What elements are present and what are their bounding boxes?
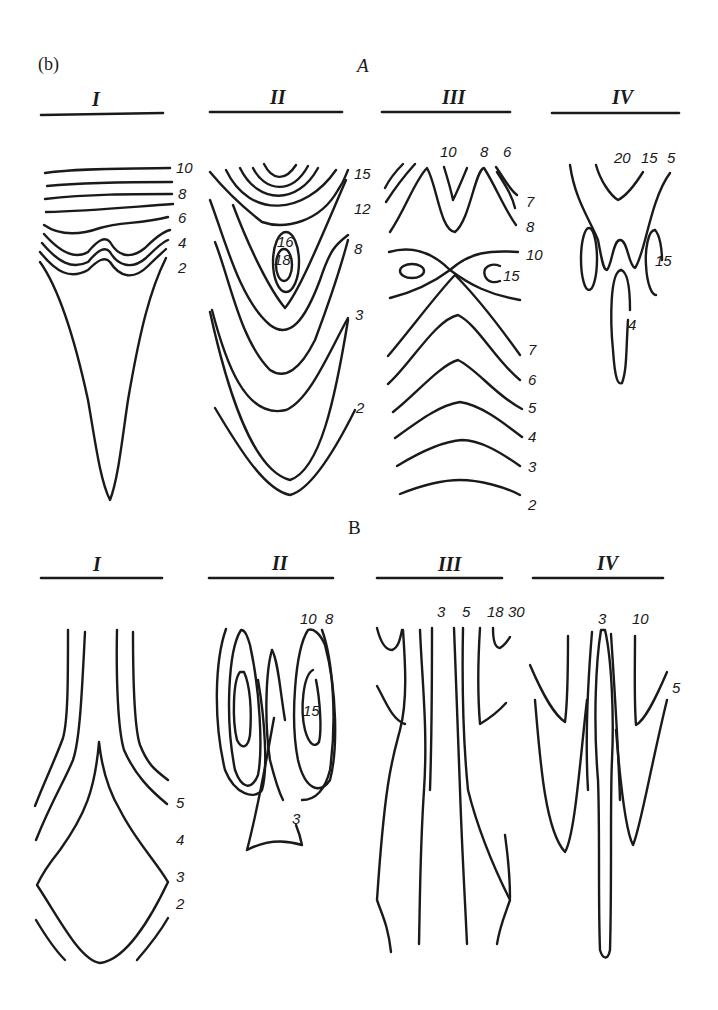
contour-label: 8 [480, 143, 489, 160]
row-label-a: A [355, 55, 369, 76]
contour-loop [581, 228, 597, 290]
contour-label: 5 [528, 399, 537, 416]
contour-label: 15 [641, 149, 658, 166]
contour-label: 16 [277, 233, 294, 250]
panel-b-1: I 5 4 3 2 [35, 553, 185, 963]
contour-line [377, 630, 405, 952]
contour-line [215, 408, 355, 495]
contour-line [400, 480, 520, 495]
contour-line [137, 918, 168, 960]
contour-label: 3 [528, 458, 537, 475]
contour-line [210, 312, 348, 480]
panel-a-3: III 10 8 6 7 8 10 15 7 6 5 4 3 2 [382, 86, 543, 513]
contour-line [430, 628, 432, 790]
contour-label: 5 [176, 794, 185, 811]
panel-title: IV [611, 86, 635, 108]
contour-label: 5 [672, 679, 681, 696]
panel-title: III [437, 553, 463, 575]
contour-line [40, 258, 166, 500]
contour-label: 3 [176, 868, 185, 885]
panel-b-2: II 10 8 15 3 [209, 552, 335, 850]
contour-label: 10 [300, 610, 317, 627]
contour-loop [595, 630, 612, 958]
panel-b-4: IV 3 10 5 [530, 552, 681, 958]
contour-label: 4 [178, 234, 186, 251]
contour-label: 6 [528, 371, 537, 388]
contour-line [463, 628, 510, 944]
contour-line [505, 835, 510, 898]
contour-label: 10 [526, 246, 543, 263]
contour-line [377, 686, 405, 724]
panel-title: II [269, 86, 287, 108]
contour-label: 10 [632, 610, 649, 627]
contour-line [36, 632, 85, 840]
panel-divider [41, 113, 163, 115]
contour-line [272, 650, 285, 720]
contour-label: 3 [355, 306, 364, 323]
contour-line [454, 628, 467, 944]
contour-label: 15 [303, 702, 320, 719]
contour-line [587, 632, 592, 790]
contour-line [266, 650, 283, 800]
row-label-b: B [348, 517, 361, 538]
panel-title: III [441, 86, 467, 108]
contour-line [37, 742, 168, 963]
contour-label: 2 [355, 399, 365, 416]
contour-line [45, 168, 170, 173]
contour-line [385, 164, 403, 188]
contour-label: 6 [178, 209, 187, 226]
contour-line [388, 315, 520, 384]
contour-line [133, 632, 168, 780]
contour-line [419, 630, 425, 944]
contour-line [40, 249, 166, 275]
contour-label: 30 [508, 603, 525, 620]
contour-line [45, 194, 172, 199]
contour-loop [400, 264, 424, 278]
contour-label: 3 [598, 610, 607, 627]
contour-label: 6 [503, 143, 512, 160]
panel-a-4: IV 20 15 5 15 4 [552, 86, 679, 383]
contour-line [397, 440, 520, 466]
contour-label: 3 [437, 603, 446, 620]
panel-title: I [92, 553, 102, 575]
contour-label: 2 [177, 259, 187, 276]
panel-title: II [271, 552, 289, 574]
panel-a-2: II 15 12 16 18 8 3 2 [210, 86, 371, 495]
contour-label: 15 [354, 165, 371, 182]
contour-label: 5 [462, 603, 471, 620]
contour-label: 12 [354, 200, 371, 217]
contour-label: 7 [526, 193, 535, 210]
contour-line [496, 167, 517, 195]
contour-line [389, 249, 518, 270]
panel-a-1: I 10 8 6 4 2 [40, 88, 193, 500]
contour-label: 20 [613, 149, 631, 166]
contour-line [395, 402, 522, 438]
contour-line [635, 636, 667, 725]
panel-b-3: III 3 5 18 30 [377, 553, 525, 952]
contour-label: 7 [528, 341, 537, 358]
contour-label: 2 [175, 895, 185, 912]
contour-label: 8 [526, 218, 535, 235]
contour-label: 10 [440, 143, 457, 160]
contour-line [240, 168, 318, 196]
contour-line [621, 270, 630, 310]
panel-title: I [91, 88, 101, 110]
contour-label: 8 [325, 610, 334, 627]
contour-line [596, 165, 643, 200]
contour-line [117, 630, 167, 804]
contour-label: 8 [354, 240, 363, 257]
contour-line [36, 920, 65, 960]
contour-label: 8 [178, 185, 187, 202]
figure-tag: (b) [38, 54, 59, 75]
contour-line [535, 700, 587, 852]
contour-line [444, 167, 467, 200]
contour-line [47, 182, 172, 186]
contour-label: 18 [274, 251, 291, 268]
contour-line [484, 265, 500, 282]
contour-label: 4 [628, 316, 636, 333]
contour-line [264, 164, 296, 177]
contour-loop [234, 672, 251, 746]
contour-label: 18 [487, 603, 504, 620]
contour-figure: (b) A I 10 8 6 4 2 II 15 [0, 0, 718, 1010]
contour-line [44, 217, 168, 233]
